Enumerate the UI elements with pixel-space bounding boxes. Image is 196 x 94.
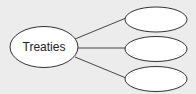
center-node-label: Treaties [23, 40, 66, 54]
branch-node-1 [125, 7, 187, 32]
diagram-canvas: Treaties [0, 0, 196, 94]
branch-node-2 [125, 37, 187, 62]
connector-bottom [75, 57, 126, 78]
concept-web-diagram: Treaties [0, 0, 196, 94]
branch-node-3 [125, 67, 187, 92]
connector-top [75, 18, 126, 39]
